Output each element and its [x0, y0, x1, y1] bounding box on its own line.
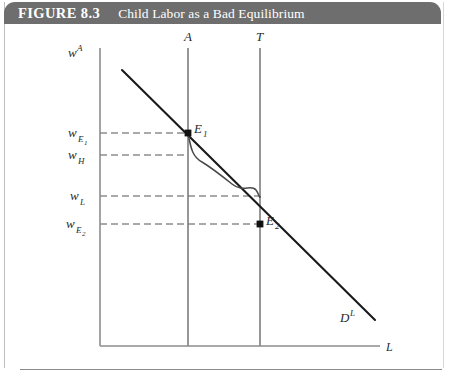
wage-label-wE2-subscript: E: [75, 225, 82, 235]
wage-label-wH-symbol: w: [68, 147, 77, 162]
plot-area: w A w E 1 w H w L w E 2 A T 0 A' T' L E …: [0, 24, 465, 354]
vertical-line-T-label: T: [256, 29, 264, 44]
equilibrium-label-E2: E: [265, 213, 274, 228]
equilibrium-label-E1-subscript: 1: [203, 129, 208, 139]
y-axis-label: w: [68, 45, 77, 60]
figure-banner: FIGURE 8.3 Child Labor as a Bad Equilibr…: [4, 2, 441, 24]
equilibrium-point-E1: [185, 130, 192, 137]
x-axis-label: L: [385, 340, 393, 354]
labor-demand-label: D: [339, 310, 350, 325]
wage-label-wE2-index: 2: [82, 230, 86, 238]
x-tick-label-A-prime: A': [181, 352, 192, 354]
origin-label: 0: [94, 352, 100, 354]
equilibrium-point-E2: [257, 221, 264, 228]
x-tick-label-T-prime: T': [254, 352, 264, 354]
labor-demand-label-superscript: L: [349, 308, 355, 318]
figure-title: Child Labor as a Bad Equilibrium: [118, 6, 305, 22]
equilibrium-label-E2-subscript: 2: [275, 221, 280, 231]
figure-container: FIGURE 8.3 Child Labor as a Bad Equilibr…: [0, 0, 465, 378]
figure-bottom-rule: [20, 369, 442, 370]
labor-demand-line: [122, 70, 375, 320]
figure-number-label: FIGURE 8.3: [18, 5, 100, 22]
wage-label-wE2-symbol: w: [66, 216, 75, 231]
wage-label-wE1-index: 1: [84, 139, 88, 147]
wage-guide-lines: [100, 133, 260, 224]
wage-label-wL-symbol: w: [70, 188, 79, 203]
labor-supply-curve: [188, 133, 260, 197]
wage-label-wE1-symbol: w: [68, 125, 77, 140]
figure-plot-svg: w A w E 1 w H w L w E 2 A T 0 A' T' L E …: [0, 24, 465, 354]
wage-label-wL-subscript: L: [79, 197, 85, 207]
y-axis-label-superscript: A: [76, 43, 83, 53]
wage-label-wE1-subscript: E: [77, 134, 84, 144]
wage-label-wH-subscript: H: [77, 156, 85, 166]
equilibrium-label-E1: E: [193, 121, 202, 136]
vertical-line-A-label: A: [183, 29, 192, 44]
figure-banner-inner: FIGURE 8.3 Child Labor as a Bad Equilibr…: [4, 5, 305, 22]
